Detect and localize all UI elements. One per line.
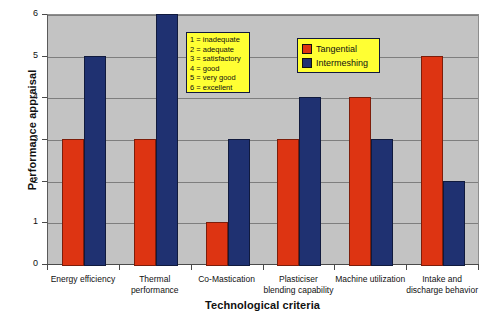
scale-legend-row: 2 = adequate xyxy=(190,45,249,55)
y-tick-label: 6 xyxy=(22,9,38,18)
bar-tangential-1 xyxy=(134,139,156,266)
plot-frame-right xyxy=(478,14,479,265)
y-tick-mark xyxy=(42,181,47,182)
bar-intermeshing-4 xyxy=(371,139,393,266)
legend-item-tangential: Tangential xyxy=(302,42,379,56)
x-tick-mark xyxy=(191,265,192,270)
gridline xyxy=(48,15,479,16)
legend-swatch-tangential-icon xyxy=(302,44,312,54)
y-tick-label: 2 xyxy=(22,176,38,185)
x-tick-mark xyxy=(47,265,48,270)
y-tick-label: 5 xyxy=(22,51,38,60)
y-tick-label: 4 xyxy=(22,92,38,101)
legend-item-intermeshing: Intermeshing xyxy=(302,56,379,70)
gridline xyxy=(48,182,479,183)
x-tick-mark xyxy=(478,265,479,270)
y-tick-mark xyxy=(42,139,47,140)
y-tick-mark xyxy=(42,222,47,223)
y-tick-label: 0 xyxy=(22,259,38,268)
x-tick-mark xyxy=(119,265,120,270)
series-legend: Tangential Intermeshing xyxy=(297,38,380,73)
bar-intermeshing-5 xyxy=(443,181,465,266)
legend-label-intermeshing: Intermeshing xyxy=(316,59,368,68)
bar-intermeshing-0 xyxy=(84,56,106,266)
bar-intermeshing-3 xyxy=(299,97,321,266)
bar-chart: Performance appraisal 0123456 Energy eff… xyxy=(0,0,492,319)
x-category-label-line: Intake and xyxy=(400,274,484,285)
legend-swatch-intermeshing-icon xyxy=(302,58,312,68)
y-tick-mark xyxy=(42,56,47,57)
y-tick-label: 3 xyxy=(22,134,38,143)
bar-intermeshing-2 xyxy=(228,139,250,266)
x-tick-mark xyxy=(334,265,335,270)
x-tick-mark xyxy=(406,265,407,270)
bar-tangential-3 xyxy=(277,139,299,266)
x-category-label-line: discharge behavior xyxy=(400,285,484,296)
x-tick-mark xyxy=(263,265,264,270)
gridline xyxy=(48,98,479,99)
x-category-label: Intake anddischarge behavior xyxy=(400,274,484,296)
scale-legend: 1 = inadequate2 = adequate3 = satisfacto… xyxy=(186,32,250,93)
bar-intermeshing-1 xyxy=(156,14,178,266)
bar-tangential-2 xyxy=(206,222,228,266)
scale-legend-row: 5 = very good xyxy=(190,73,249,83)
x-category-label-line: performance xyxy=(113,285,197,296)
gridline xyxy=(48,223,479,224)
plot-area xyxy=(47,14,479,265)
scale-legend-row: 4 = good xyxy=(190,64,249,74)
gridline xyxy=(48,57,479,58)
y-tick-mark xyxy=(42,14,47,15)
scale-legend-row: 6 = excellent xyxy=(190,83,249,93)
bar-tangential-0 xyxy=(62,139,84,266)
bar-tangential-4 xyxy=(349,97,371,266)
bar-tangential-5 xyxy=(421,56,443,266)
x-axis-title: Technological criteria xyxy=(47,299,478,311)
legend-label-tangential: Tangential xyxy=(316,45,357,54)
scale-legend-row: 3 = satisfactory xyxy=(190,54,249,64)
y-tick-mark xyxy=(42,97,47,98)
y-tick-label: 1 xyxy=(22,217,38,226)
scale-legend-row: 1 = inadequate xyxy=(190,35,249,45)
gridline xyxy=(48,140,479,141)
x-category-label-line: blending capability xyxy=(257,285,341,296)
y-axis-title: Performance appraisal xyxy=(26,30,38,230)
